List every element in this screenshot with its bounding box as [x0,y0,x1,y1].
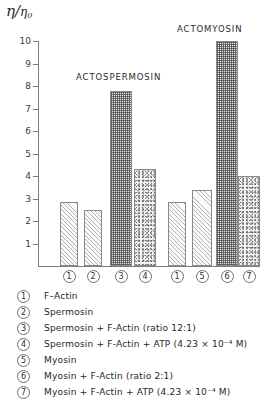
y-tick [33,221,38,222]
legend-row: 2Spermosin [0,304,265,320]
y-axis-label-subscript: 0 [27,11,32,20]
viscosity-bar-chart: η/η0 10987654321 ACTOSPERMOSINACTOMYOSIN… [0,0,265,403]
bar-2-1 [84,210,102,266]
y-tick-label: 5 [11,150,31,159]
y-tick-label: 10 [11,37,31,46]
legend: 1F–Actin2Spermosin3Spermosin + F-Actin (… [0,288,265,400]
y-tick-label: 9 [11,60,31,69]
legend-row: 4Spermosin + F-Actin + ATP (4.23 × 10⁻⁴ … [0,336,265,352]
y-tick [33,131,38,132]
legend-text-6: Myosin + F-Actin (ratio 2:1) [44,371,173,381]
y-tick-label: 2 [11,217,31,226]
axis-marker-4: 4 [139,270,152,283]
bar-5-5 [192,190,212,267]
bar-3-2 [110,91,132,267]
legend-text-2: Spermosin [44,307,93,317]
x-axis-line [38,266,260,267]
axis-marker-6: 6 [221,270,234,283]
y-tick [33,244,38,245]
bar-7-7 [238,176,260,266]
legend-row: 3Spermosin + F-Actin (ratio 12:1) [0,320,265,336]
y-tick-label: 3 [11,195,31,204]
legend-badge-5: 5 [17,354,30,367]
legend-text-3: Spermosin + F-Actin (ratio 12:1) [44,323,196,333]
y-tick [33,41,38,42]
axis-marker-7: 7 [243,270,256,283]
legend-text-5: Myosin [44,355,77,365]
y-tick [33,109,38,110]
plot-area: η/η0 10987654321 ACTOSPERMOSINACTOMYOSIN… [0,0,265,282]
axis-marker-2: 2 [87,270,100,283]
legend-badge-1: 1 [17,290,30,303]
y-tick-label: 7 [11,105,31,114]
y-tick [33,199,38,200]
y-axis-label-numerator: η [6,2,15,20]
y-axis-label: η/η0 [6,2,32,20]
bar-1-4 [168,202,186,266]
group-title-actomyosin: ACTOMYOSIN [177,24,243,34]
legend-row: 7Myosin + F-Actin + ATP (4.23 × 10⁻⁴ M) [0,384,265,400]
legend-text-4: Spermosin + F-Actin + ATP (4.23 × 10⁻⁴ M… [44,339,247,349]
axis-marker-3: 3 [115,270,128,283]
legend-badge-6: 6 [17,370,30,383]
y-tick [33,86,38,87]
y-tick-label: 1 [11,240,31,249]
y-tick-label: 4 [11,172,31,181]
bar-6-6 [216,41,238,266]
y-axis-line [38,41,39,266]
legend-row: 1F–Actin [0,288,265,304]
y-tick [33,176,38,177]
legend-text-7: Myosin + F-Actin + ATP (4.23 × 10⁻⁴ M) [44,387,231,397]
bar-1-0 [60,202,78,266]
axis-marker-1: 1 [171,270,184,283]
legend-badge-3: 3 [17,322,30,335]
legend-row: 6Myosin + F-Actin (ratio 2:1) [0,368,265,384]
y-tick-label: 8 [11,82,31,91]
y-tick [33,64,38,65]
legend-badge-2: 2 [17,306,30,319]
legend-badge-4: 4 [17,338,30,351]
legend-row: 5Myosin [0,352,265,368]
legend-text-1: F–Actin [44,291,78,301]
legend-badge-7: 7 [17,386,30,399]
axis-marker-5: 5 [196,270,209,283]
y-tick [33,154,38,155]
axis-marker-1: 1 [63,270,76,283]
group-title-actospermosin: ACTOSPERMOSIN [76,72,161,82]
bar-4-3 [134,169,156,266]
y-tick-label: 6 [11,127,31,136]
